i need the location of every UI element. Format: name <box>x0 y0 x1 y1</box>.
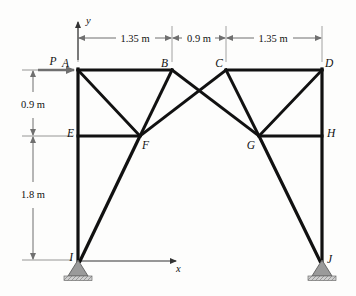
node-label-E: E <box>66 127 74 139</box>
support-j-ground <box>308 276 336 281</box>
load-label-p: P <box>48 55 56 67</box>
supports <box>64 260 336 281</box>
dim-ei-label: 1.8 m <box>21 189 45 200</box>
node-labels: A B C D E F G H I J <box>61 57 336 265</box>
dim-cd-label: 1.35 m <box>258 33 287 44</box>
dimension-cd: 1.35 m <box>227 33 321 44</box>
node-label-B: B <box>161 57 168 69</box>
node-label-C: C <box>215 57 223 69</box>
dimension-ab: 1.35 m <box>79 33 171 44</box>
node-label-G: G <box>247 139 256 151</box>
dimension-ei: 1.8 m <box>21 137 45 259</box>
dim-bc-label: 0.9 m <box>187 33 211 44</box>
node-label-H: H <box>326 127 336 139</box>
member-D-G <box>259 70 322 136</box>
truss-diagram-canvas: 1.35 m 0.9 m 1.35 m 0.9 m <box>0 0 356 296</box>
y-axis-label: y <box>85 15 91 26</box>
x-axis-label: x <box>175 263 181 274</box>
node-label-A: A <box>61 57 70 69</box>
member-C-G <box>226 70 259 136</box>
member-F-I <box>80 136 140 261</box>
support-i-ground <box>64 276 92 281</box>
support-i-pin <box>64 260 92 281</box>
member-B-F <box>140 70 172 136</box>
horizontal-dimensions: 1.35 m 0.9 m 1.35 m <box>78 26 322 62</box>
node-label-F: F <box>141 139 150 151</box>
vertical-dimensions: 0.9 m 1.8 m <box>21 70 72 260</box>
dim-ab-label: 1.35 m <box>120 33 149 44</box>
dimension-ae: 0.9 m <box>21 71 45 135</box>
node-label-J: J <box>327 253 333 265</box>
truss-figure: 1.35 m 0.9 m 1.35 m 0.9 m <box>0 0 356 296</box>
truss-members <box>78 69 322 261</box>
node-label-D: D <box>324 57 334 69</box>
dim-ae-label: 0.9 m <box>21 99 45 110</box>
member-G-J <box>259 136 320 261</box>
dimension-bc: 0.9 m <box>173 33 225 44</box>
member-A-F <box>78 70 140 136</box>
node-label-I: I <box>68 251 74 263</box>
